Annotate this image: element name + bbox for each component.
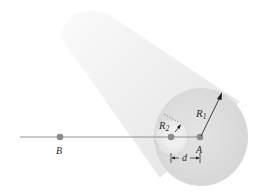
label-b: B [56,145,62,156]
cylinder-with-hole-diagram: R1 R2 A B d [0,0,259,196]
point-a [197,134,204,141]
point-b [57,134,64,141]
hole-center-point [168,134,175,141]
label-a: A [195,144,203,155]
